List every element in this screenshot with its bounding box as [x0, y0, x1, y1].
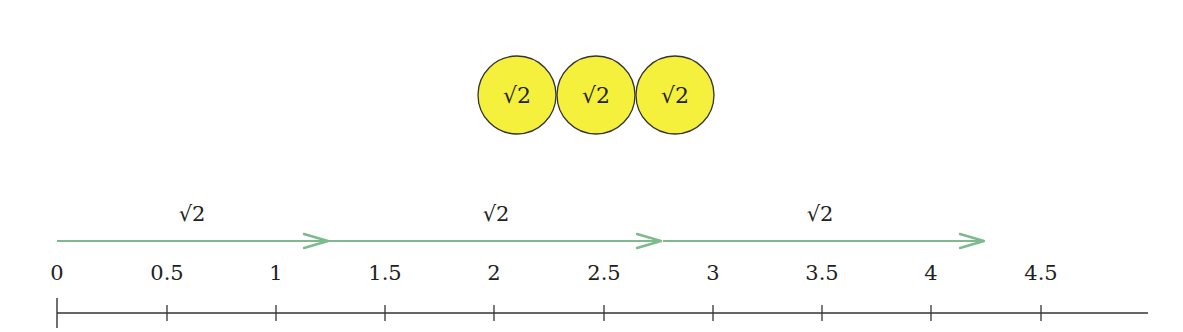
tick: 0.5 — [150, 261, 183, 321]
tick-label: 2.5 — [587, 261, 620, 285]
tick: 1.5 — [368, 261, 401, 321]
coin: √2 — [557, 56, 635, 134]
arrow-segment: √2 — [57, 202, 328, 248]
coin: √2 — [636, 56, 714, 134]
arrow-label: √2 — [807, 202, 834, 226]
coin-label: √2 — [582, 83, 610, 108]
tick: 2 — [487, 261, 500, 321]
coin-label: √2 — [661, 83, 689, 108]
arrows-group: √2 √2 √2 — [57, 202, 984, 248]
tick: 4 — [924, 261, 937, 321]
tick-label: 1 — [269, 261, 282, 285]
tick-label: 0.5 — [150, 261, 183, 285]
tick-label: 4 — [924, 261, 937, 285]
tick: 4.5 — [1024, 261, 1057, 321]
arrow-segment: √2 — [663, 202, 984, 248]
tick-label: 1.5 — [368, 261, 401, 285]
tick-label: 2 — [487, 261, 500, 285]
tick-label: 4.5 — [1024, 261, 1057, 285]
arrow-segment: √2 — [298, 202, 661, 248]
arrow-label: √2 — [179, 202, 206, 226]
coin: √2 — [478, 56, 556, 134]
tick: 2.5 — [587, 261, 620, 321]
tick: 3 — [706, 261, 719, 321]
tick: 1 — [269, 261, 282, 321]
arrow-label: √2 — [483, 202, 510, 226]
tick-label: 0 — [50, 261, 63, 285]
tick-label: 3.5 — [805, 261, 838, 285]
tick: 0 — [50, 261, 63, 285]
tick-label: 3 — [706, 261, 719, 285]
tick-group: 0 0.5 1 1.5 2 2.5 3 3.5 4 4.5 — [50, 261, 1057, 321]
sqrt2-number-line-diagram: √2 √2 √2 √2 √2 √2 — [0, 0, 1183, 332]
coin-label: √2 — [503, 83, 531, 108]
tick: 3.5 — [805, 261, 838, 321]
coins-group: √2 √2 √2 — [478, 56, 714, 134]
number-line: 0 0.5 1 1.5 2 2.5 3 3.5 4 4.5 — [50, 261, 1148, 328]
